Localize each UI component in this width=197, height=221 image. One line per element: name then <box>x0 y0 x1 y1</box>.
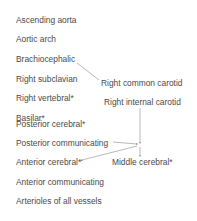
arrowhead-icon <box>139 155 141 157</box>
connector-lines <box>0 0 197 221</box>
brachio-to-common-carotid-line <box>77 63 99 80</box>
anterior-cerebral-line <box>82 146 137 160</box>
arrowhead-icon <box>136 143 138 145</box>
arrowhead-icon <box>139 142 141 144</box>
posterior-communicating-line <box>113 142 137 144</box>
